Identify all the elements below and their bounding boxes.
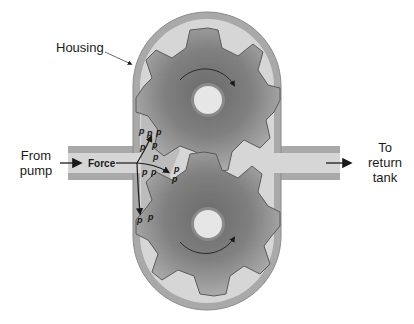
outlet-label: To return tank (362, 140, 408, 185)
pressure-symbol: p (140, 142, 146, 152)
inlet-label: From pump (14, 148, 58, 178)
pressure-symbol: p (148, 212, 154, 222)
pressure-symbol: p (151, 167, 157, 177)
pressure-symbol: p (172, 174, 178, 184)
pressure-symbol: p (137, 215, 143, 225)
outlet-label-line2: return (362, 155, 408, 170)
pressure-symbol: p (152, 140, 158, 150)
pressure-symbol: p (174, 164, 180, 174)
outlet-label-line3: tank (362, 170, 408, 185)
inlet-label-line2: pump (14, 163, 58, 178)
pressure-symbol: p (142, 167, 148, 177)
pressure-symbol: p (147, 128, 153, 138)
pressure-symbol: p (139, 126, 145, 136)
pressure-symbol: p (156, 127, 162, 137)
inlet-label-line1: From (14, 148, 58, 163)
force-label: Force (88, 156, 115, 171)
housing-leader-line (105, 52, 131, 64)
pressure-symbol: p (153, 152, 159, 162)
housing-label: Housing (56, 40, 104, 55)
outlet-label-line1: To (362, 140, 408, 155)
